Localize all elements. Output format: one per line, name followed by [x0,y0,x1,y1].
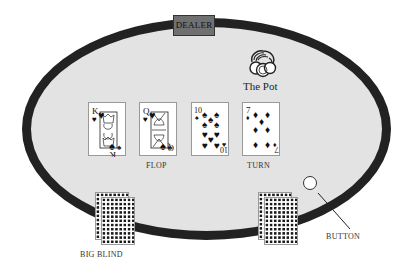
button-label: BUTTON [326,232,360,241]
card-back [264,197,298,245]
big-blind-label: BIG BLIND [80,250,123,259]
card-back [101,197,135,245]
